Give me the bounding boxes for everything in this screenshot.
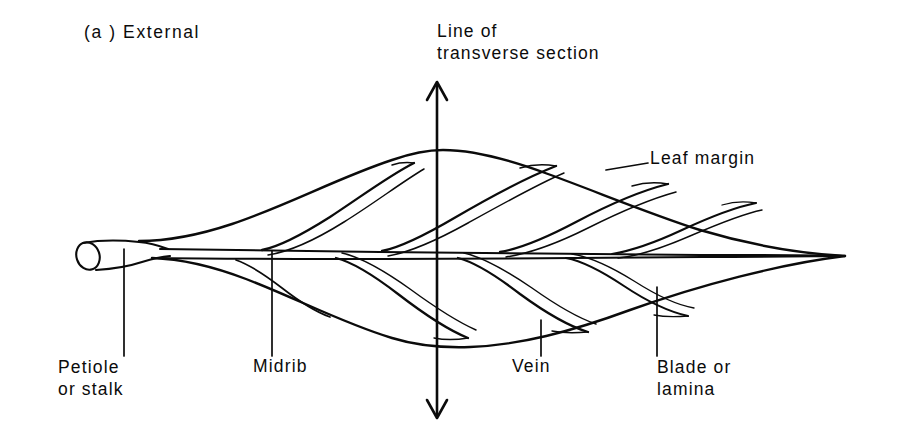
panel-title: (a ) External bbox=[84, 22, 200, 43]
vein-lower-1-tip bbox=[434, 338, 468, 340]
label-petiole: Petiole or stalk bbox=[58, 356, 124, 400]
label-transverse-section: Line of transverse section bbox=[437, 20, 600, 64]
vein-lower-2-a bbox=[458, 258, 588, 332]
vein-upper-3-b bbox=[506, 192, 676, 257]
vein-upper-3-a bbox=[500, 184, 668, 252]
vein-upper-4-a bbox=[612, 203, 756, 254]
lower-veins bbox=[236, 253, 694, 340]
petiole-shape bbox=[73, 239, 170, 273]
label-leaf-margin: Leaf margin bbox=[650, 148, 755, 169]
petiole-cut-end bbox=[73, 239, 104, 273]
vein-lower-3-b bbox=[572, 254, 694, 308]
leaf-diagram-figure: (a ) External Line of transverse section… bbox=[0, 0, 902, 443]
vein-lower-1-b bbox=[342, 253, 476, 330]
vein-upper-4-b bbox=[618, 210, 762, 258]
label-blade-lamina: Blade or lamina bbox=[657, 356, 731, 400]
transverse-section-axis bbox=[427, 82, 447, 418]
vein-upper-2-b bbox=[388, 173, 564, 256]
upper-veins bbox=[262, 163, 762, 258]
vein-lower-2-b bbox=[464, 253, 596, 324]
vein-lower-3-a bbox=[566, 258, 688, 316]
midrib-lower-line bbox=[162, 256, 845, 259]
label-midrib: Midrib bbox=[253, 356, 308, 377]
label-vein: Vein bbox=[512, 356, 551, 377]
leaf-diagram-svg bbox=[0, 0, 902, 443]
leader-leaf-margin bbox=[606, 163, 648, 170]
leaf-margin-outline bbox=[139, 150, 845, 347]
vein-upper-1-a bbox=[262, 163, 414, 250]
vein-upper-1-b bbox=[268, 169, 424, 255]
